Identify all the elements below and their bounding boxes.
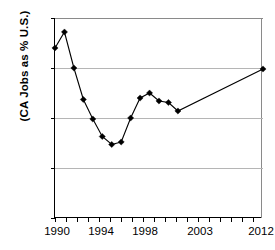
data-point-marker [137, 95, 143, 101]
x-tick-mark [55, 218, 56, 222]
data-point-marker [260, 66, 266, 72]
x-tick-mark [121, 218, 122, 222]
series-markers [52, 29, 266, 148]
x-tick-mark [209, 218, 210, 222]
data-point-marker [71, 65, 77, 71]
data-point-marker [90, 116, 96, 122]
x-tick-mark [253, 218, 254, 222]
data-point-marker [128, 115, 134, 121]
data-point-marker [61, 29, 67, 35]
x-tick-mark [99, 218, 100, 222]
data-series [55, 18, 263, 218]
x-tick-label: 1994 [78, 226, 124, 238]
x-tick-mark [132, 218, 133, 222]
x-tick-mark [242, 218, 243, 222]
plot-area: 10%11%12%13%14% 19901994199820032012 [54, 18, 262, 218]
data-point-marker [80, 96, 86, 102]
data-point-marker [118, 139, 124, 145]
x-tick-mark [231, 218, 232, 222]
x-tick-mark [77, 218, 78, 222]
chart-container: (CA Jobs as % U.S.) 10%11%12%13%14% 1990… [0, 0, 275, 250]
data-point-marker [52, 45, 58, 51]
x-tick-mark [66, 218, 67, 222]
x-tick-mark [154, 218, 155, 222]
y-axis-title: (CA Jobs as % U.S.) [18, 0, 30, 156]
x-tick-mark [220, 218, 221, 222]
series-line [55, 32, 263, 145]
x-tick-mark [176, 218, 177, 222]
x-tick-label: 2012 [238, 226, 275, 238]
x-tick-mark [198, 218, 199, 222]
x-tick-mark [88, 218, 89, 222]
x-tick-mark [165, 218, 166, 222]
x-tick-label: 1998 [122, 226, 168, 238]
x-tick-mark [143, 218, 144, 222]
x-tick-mark [187, 218, 188, 222]
x-tick-label: 1990 [34, 226, 80, 238]
x-tick-label: 2003 [177, 226, 223, 238]
x-tick-mark [110, 218, 111, 222]
